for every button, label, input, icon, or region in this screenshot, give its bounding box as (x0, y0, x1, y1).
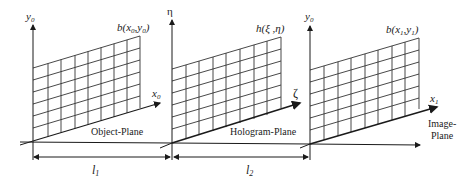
image-plane-label-1: Image- (428, 118, 456, 129)
hologram-zeta-label: ζ (293, 86, 298, 100)
hologram-function-label: h(ξ ,η) (256, 22, 285, 35)
object-plane-label: Object-Plane (91, 126, 144, 137)
svg-text:l1: l1 (92, 163, 99, 178)
distance-l2: l2 (174, 157, 308, 178)
object-x-axis-label: x0 (151, 87, 161, 101)
hologram-plane: η ζ h(ξ ,η) Hologram-Plane (160, 5, 300, 160)
object-y-axis-label: y0 (25, 10, 35, 24)
hologram-grid (172, 37, 281, 139)
image-plane-label-2: Plane (431, 130, 454, 141)
object-function-label: b(x0,y0) (117, 21, 150, 35)
hologram-eta-label: η (167, 5, 173, 17)
distance-l1: l1 (34, 157, 170, 178)
optical-axis (20, 142, 420, 145)
image-grid (310, 38, 419, 140)
svg-text:l2: l2 (246, 163, 253, 178)
image-plane: y0 x1 b(x1,y1) Image- Plane (300, 10, 456, 160)
holography-diagram: y0 x0 b(x0,y0) Object-Plane η ζ h(ξ ,η) (0, 0, 464, 187)
image-x-axis-label: x1 (429, 92, 438, 106)
image-y-axis-label: y0 (304, 10, 314, 24)
hologram-plane-label: Hologram-Plane (230, 126, 297, 137)
object-plane: y0 x0 b(x0,y0) Object-Plane (20, 10, 161, 160)
image-function-label: b(x1,y1) (386, 23, 419, 37)
object-grid (33, 36, 140, 137)
